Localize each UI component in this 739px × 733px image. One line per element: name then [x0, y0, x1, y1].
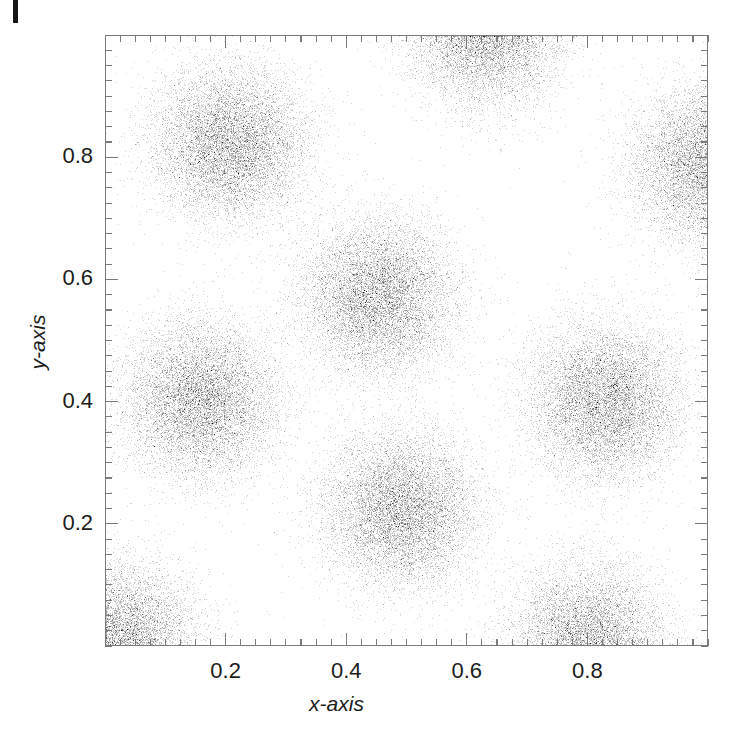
y-axis-title-text: y-axis [26, 315, 49, 370]
scatter-density-figure: 0.20.40.60.80.20.40.60.8 x-axis y-axis [0, 0, 739, 733]
plot-frame [105, 35, 708, 646]
y-tick-label: 0.6 [13, 265, 93, 291]
y-tick-label: 0.2 [13, 510, 93, 536]
y-tick-label: 0.4 [13, 388, 93, 414]
x-tick-label: 0.4 [306, 658, 386, 684]
x-axis-title: x-axis [0, 692, 739, 716]
x-tick-label: 0.6 [427, 658, 507, 684]
x-tick-label: 0.2 [186, 658, 266, 684]
density-scatter-canvas [106, 36, 708, 646]
y-axis-title: y-axis [26, 282, 50, 402]
y-tick-label: 0.8 [13, 143, 93, 169]
x-axis-title-text: x-axis [309, 692, 364, 715]
x-tick-label: 0.8 [547, 658, 627, 684]
